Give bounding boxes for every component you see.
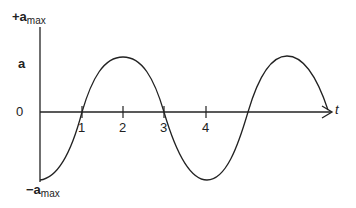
x-axis-label: t: [335, 103, 339, 116]
acceleration-curve: [40, 56, 328, 180]
tick-label-3: 3: [160, 121, 167, 134]
y-min-label: −amax: [26, 183, 60, 199]
y-axis-label: a: [18, 57, 25, 70]
tick-label-2: 2: [119, 121, 126, 134]
tick-label-4: 4: [202, 121, 209, 134]
graph-canvas: [0, 0, 356, 208]
tick-label-1: 1: [78, 121, 85, 134]
y-max-label: +amax: [12, 10, 46, 26]
zero-label: 0: [16, 105, 23, 118]
